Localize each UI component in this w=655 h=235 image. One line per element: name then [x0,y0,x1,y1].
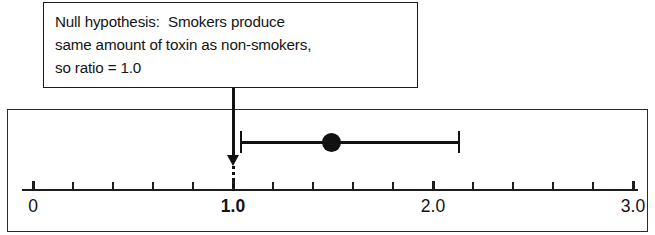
x-axis-tick [272,182,274,190]
x-axis-label: 0 [28,196,38,217]
callout-line-3: so ratio = 1.0 [55,56,417,79]
x-axis-tick [72,182,74,190]
x-axis-tick [152,182,154,190]
x-axis-tick [512,182,514,190]
callout-line-1: Null hypothesis: Smokers produce [55,10,417,33]
confidence-interval-lower-cap [240,131,243,153]
plot-frame [7,109,648,232]
callout-leader-line [232,88,235,160]
x-axis-tick [552,182,554,190]
x-axis-tick [432,181,435,190]
x-axis-label: 3.0 [621,196,645,217]
x-axis-tick [472,182,474,190]
x-axis-tick [112,182,114,190]
x-axis-label: 2.0 [421,196,445,217]
confidence-interval-upper-cap [458,131,461,153]
x-axis-line [22,189,638,191]
confidence-interval-line [241,141,459,144]
callout-line-2: same amount of toxin as non-smokers, [55,33,417,56]
x-axis-tick [312,182,314,190]
callout-arrowhead-icon [227,155,239,166]
confidence-interval-figure: Null hypothesis: Smokers produce same am… [0,0,655,235]
x-axis-tick [592,182,594,190]
null-hypothesis-callout: Null hypothesis: Smokers produce same am… [43,2,418,88]
x-axis-tick [32,181,35,190]
x-axis-tick [392,182,394,190]
point-estimate-marker [322,133,341,152]
x-axis-tick [632,181,635,190]
null-value-reference-line [232,166,235,191]
x-axis-label: 1.0 [221,196,245,217]
x-axis-tick [192,182,194,190]
x-axis-tick [352,182,354,190]
